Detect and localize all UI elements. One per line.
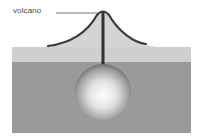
magma-chamber [75, 64, 131, 120]
volcano-diagram [0, 0, 200, 139]
